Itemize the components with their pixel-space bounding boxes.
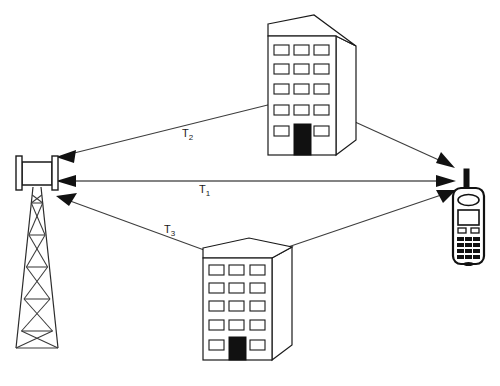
path-label-t3-sub: 3 <box>171 229 176 238</box>
path-t1-arrow-phone <box>436 175 456 187</box>
phone-key <box>457 249 464 253</box>
phone-key <box>473 243 480 247</box>
phone-key <box>465 243 472 247</box>
path-t3-arrow-tower <box>56 193 77 206</box>
tower-brace <box>22 299 51 331</box>
phone-key <box>473 255 480 259</box>
upper-building-window <box>314 45 329 55</box>
lower-building-window <box>229 301 244 311</box>
lower-building-door <box>229 337 246 360</box>
upper-building-window <box>274 64 289 74</box>
phone-softkey-right <box>471 228 479 233</box>
lower-building-window <box>209 340 224 350</box>
phone-key <box>465 255 472 259</box>
tower-brace <box>26 235 45 267</box>
upper-building-window <box>294 84 309 94</box>
upper-building-window <box>294 64 309 74</box>
lower-building-window <box>250 283 265 293</box>
upper-building <box>268 15 356 155</box>
path-label-t2-sub: 2 <box>189 133 194 142</box>
lower-building-window <box>209 320 224 330</box>
tower-brace <box>26 267 50 299</box>
multipath-diagram: T2 T1 T3 <box>0 0 500 386</box>
path-t1 <box>56 175 456 187</box>
lower-building-window <box>209 265 224 275</box>
mobile-phone <box>453 169 484 266</box>
upper-building-door <box>294 124 311 155</box>
diagram-canvas: T2 T1 T3 <box>0 0 500 386</box>
lower-building-window <box>229 283 244 293</box>
path-label-t2: T2 <box>182 127 194 142</box>
lower-building-window <box>250 320 265 330</box>
path-t1-arrow-tower <box>56 175 76 187</box>
upper-building-window <box>274 126 289 136</box>
tower-brace <box>16 331 53 348</box>
path-t2-segment-left <box>62 97 300 156</box>
phone-screen <box>458 210 479 225</box>
upper-building-side <box>336 36 356 155</box>
tower-antenna-bar-right <box>52 156 58 190</box>
phone-key <box>473 237 480 241</box>
lower-building-window <box>250 265 265 275</box>
upper-building-window <box>274 105 289 115</box>
path-t2-arrow-tower <box>56 150 76 163</box>
upper-building-window <box>274 84 289 94</box>
phone-bottom-button <box>464 262 474 266</box>
phone-key <box>465 249 472 253</box>
path-t2 <box>56 97 455 168</box>
path-t2-arrow-phone <box>436 152 455 168</box>
phone-softkey-left <box>458 228 466 233</box>
upper-building-window <box>294 105 309 115</box>
lower-building-window <box>209 283 224 293</box>
lower-building <box>203 238 292 360</box>
phone-earpiece <box>458 195 479 206</box>
upper-building-window <box>314 105 329 115</box>
upper-building-window <box>314 64 329 74</box>
lower-building-window <box>209 301 224 311</box>
tower-antenna-box <box>22 162 52 185</box>
upper-building-window <box>314 126 329 136</box>
lower-building-side <box>272 247 292 360</box>
lower-building-window <box>250 301 265 311</box>
lower-building-window <box>229 320 244 330</box>
phone-key <box>457 255 464 259</box>
lower-building-window <box>229 265 244 275</box>
tower-brace <box>22 331 59 348</box>
lower-building-window <box>250 340 265 350</box>
path-t3-segment-right <box>288 192 450 247</box>
path-label-t1: T1 <box>199 183 211 198</box>
path-t3-segment-left <box>62 198 215 254</box>
tower-brace <box>31 195 42 203</box>
tower-brace <box>24 299 53 331</box>
lower-building-roof <box>203 238 292 258</box>
phone-key <box>457 237 464 241</box>
phone-key <box>457 243 464 247</box>
upper-building-window <box>294 45 309 55</box>
phone-key <box>473 249 480 253</box>
tower-brace <box>24 267 48 299</box>
tower-antenna-bar-left <box>16 156 22 190</box>
upper-building-window <box>314 84 329 94</box>
tower-brace <box>32 195 43 203</box>
tower-brace <box>29 235 48 267</box>
path-label-t1-sub: 1 <box>206 189 211 198</box>
phone-key <box>465 237 472 241</box>
base-station-tower <box>16 156 58 348</box>
upper-building-window <box>274 45 289 55</box>
